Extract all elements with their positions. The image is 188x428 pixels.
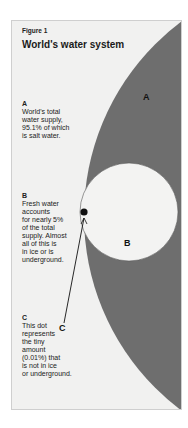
note-b-line: in ice or is [22, 248, 67, 256]
note-b-line: all of this is [22, 240, 67, 248]
note-c-line: the tiny [22, 338, 72, 346]
note-b-line: accounts [22, 208, 67, 216]
note-b-line: underground. [22, 256, 67, 264]
note-c-line: (0.01%) that [22, 354, 72, 362]
note-a-line: 95.1% of which [22, 124, 69, 132]
note-a-key: A [22, 100, 69, 108]
note-b-key: B [22, 192, 67, 200]
non-ice-water-dot [80, 208, 87, 215]
note-c: C This dot represents the tiny amount (0… [22, 314, 72, 378]
pointer-line [64, 218, 84, 323]
note-c-line: or underground. [22, 370, 72, 378]
note-b-line: for nearly 5% [22, 216, 67, 224]
note-a: A World's total water supply, 95.1% of w… [22, 100, 69, 140]
figure-label: Figure 1 [22, 27, 47, 34]
note-b-line: Fresh water [22, 200, 67, 208]
note-c-line: This dot [22, 322, 72, 330]
note-b: B Fresh water accounts for nearly 5% of … [22, 192, 67, 264]
note-a-line: water supply, [22, 116, 69, 124]
note-c-line: represents [22, 330, 72, 338]
note-a-line: World's total [22, 108, 69, 116]
note-c-line: amount [22, 346, 72, 354]
diagram-label-a: A [143, 92, 150, 102]
figure-title: World's water system [22, 39, 124, 50]
note-a-line: is salt water. [22, 132, 69, 140]
diagram-label-b: B [124, 238, 131, 248]
note-b-line: supply. Almost [22, 232, 67, 240]
figure-frame: Figure 1 World's water system A B C A Wo… [11, 20, 182, 410]
note-b-line: of the total [22, 224, 67, 232]
note-c-line: is not in ice [22, 362, 72, 370]
note-c-key: C [22, 314, 72, 322]
